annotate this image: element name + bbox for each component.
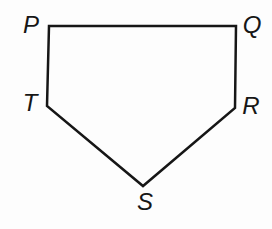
pentagon-diagram: PQRST bbox=[0, 0, 272, 229]
vertex-label-T: T bbox=[23, 89, 40, 116]
vertex-label-R: R bbox=[242, 92, 259, 119]
vertex-label-Q: Q bbox=[243, 11, 262, 38]
vertex-label-P: P bbox=[23, 11, 39, 38]
pentagon-figure: PQRST bbox=[0, 0, 272, 229]
pentagon-outline bbox=[47, 26, 236, 186]
vertex-label-S: S bbox=[137, 188, 153, 215]
